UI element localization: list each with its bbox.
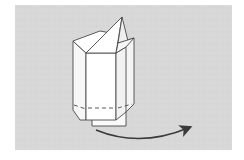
origami-diagram: Origami folding step: a folded paper tow… [0, 0, 244, 160]
